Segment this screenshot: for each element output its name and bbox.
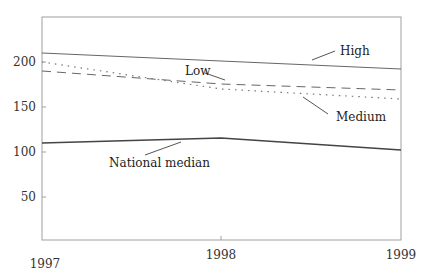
- series-low: [42, 71, 401, 90]
- y-tick-150: 150: [13, 100, 36, 114]
- y-tick-100: 100: [13, 145, 36, 159]
- svg-text:Low: Low: [185, 64, 211, 78]
- label-high: High: [312, 44, 370, 60]
- svg-text:Medium: Medium: [336, 110, 387, 124]
- svg-text:High: High: [340, 44, 370, 58]
- x-tick-1999: 1999: [386, 248, 417, 262]
- x-tick-1997: 1997: [30, 257, 61, 271]
- series-medium: [42, 62, 401, 99]
- label-low: Low: [185, 64, 225, 80]
- x-tick-1998: 1998: [206, 248, 237, 262]
- y-tick-50: 50: [21, 190, 36, 204]
- label-medium: Medium: [303, 97, 387, 124]
- svg-text:National median: National median: [109, 156, 210, 170]
- x-axis: 1997 1998 1999: [30, 236, 417, 271]
- label-national-median: National median: [109, 142, 210, 170]
- y-axis: 200 150 100 50: [13, 55, 46, 204]
- line-chart: 200 150 100 50 1997 1998 1999 High Low M…: [0, 0, 423, 278]
- y-tick-200: 200: [13, 55, 36, 69]
- series-national-median: [42, 138, 401, 150]
